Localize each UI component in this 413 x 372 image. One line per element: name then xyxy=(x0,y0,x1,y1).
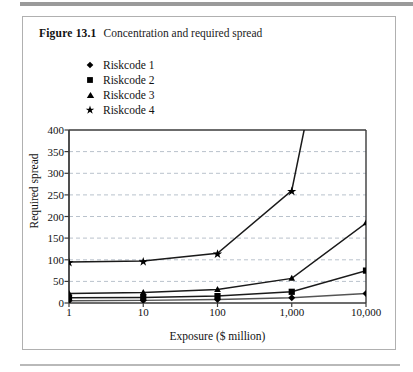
plot-area: Required spread 400 350 300 250 200 150 … xyxy=(0,0,413,372)
grid-lines xyxy=(69,152,366,282)
y-tick-300: 300 xyxy=(30,167,64,179)
y-axis-ticks: 400 350 300 250 200 150 100 50 0 xyxy=(30,0,64,372)
series-riskcode-2 xyxy=(69,271,366,298)
star-marker-icon xyxy=(83,105,97,115)
y-tick-400: 400 xyxy=(30,124,64,136)
series-riskcode-4 xyxy=(69,0,366,262)
figure-caption: Figure 13.1Concentration and required sp… xyxy=(39,27,262,39)
x-tick-10: 10 xyxy=(138,306,149,318)
axis-tick-marks xyxy=(65,130,367,307)
legend: Riskcode 1 Riskcode 2 Riskcode 3 Riskcod… xyxy=(83,57,154,117)
y-tick-150: 150 xyxy=(30,232,64,244)
series-riskcode-1 xyxy=(69,294,366,301)
y-tick-50: 50 xyxy=(30,275,64,287)
plot-frame xyxy=(69,130,366,303)
series-riskcode-3 xyxy=(69,223,366,294)
chart-canvas xyxy=(0,0,413,372)
markers-riskcode-2 xyxy=(66,268,369,301)
legend-item-riskcode-4: Riskcode 4 xyxy=(83,102,154,117)
y-tick-250: 250 xyxy=(30,189,64,201)
figure-number: Figure 13.1 xyxy=(39,27,97,39)
x-tick-100: 100 xyxy=(209,306,226,318)
legend-label-riskcode-1: Riskcode 1 xyxy=(103,59,154,71)
markers-riskcode-4 xyxy=(64,187,296,267)
square-marker-icon xyxy=(83,76,97,84)
y-tick-200: 200 xyxy=(30,211,64,223)
legend-item-riskcode-2: Riskcode 2 xyxy=(83,72,154,87)
x-axis-title: Exposure ($ million) xyxy=(69,330,366,342)
markers-riskcode-3 xyxy=(66,219,370,295)
legend-label-riskcode-2: Riskcode 2 xyxy=(103,74,154,86)
figure-screenshot: Figure 13.1Concentration and required sp… xyxy=(0,0,413,372)
figure-caption-text: Concentration and required spread xyxy=(104,27,263,39)
diamond-marker-icon xyxy=(83,61,97,69)
triangle-marker-icon xyxy=(83,91,97,99)
legend-item-riskcode-1: Riskcode 1 xyxy=(83,57,154,72)
figure-container: Figure 13.1Concentration and required sp… xyxy=(22,16,396,350)
x-tick-1: 1 xyxy=(66,306,72,318)
x-tick-1000: 1,000 xyxy=(279,306,304,318)
y-axis-title: Required spread xyxy=(28,131,40,251)
y-tick-100: 100 xyxy=(30,254,64,266)
x-tick-10000: 10,000 xyxy=(351,306,381,318)
page-top-rule xyxy=(20,2,413,6)
markers-riskcode-1 xyxy=(66,290,370,304)
page-bottom-rule xyxy=(20,364,400,366)
legend-item-riskcode-3: Riskcode 3 xyxy=(83,87,154,102)
legend-label-riskcode-3: Riskcode 3 xyxy=(103,89,154,101)
legend-label-riskcode-4: Riskcode 4 xyxy=(103,104,154,116)
y-tick-350: 350 xyxy=(30,146,64,158)
y-tick-0: 0 xyxy=(30,297,64,309)
